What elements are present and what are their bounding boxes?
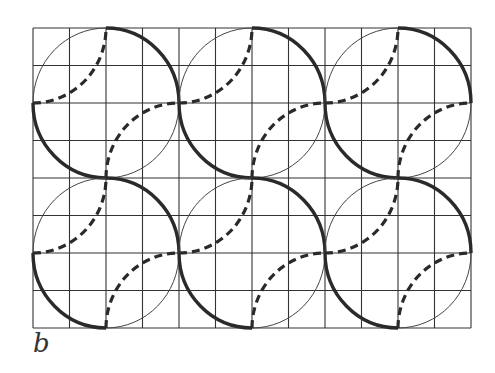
circle-grid-diagram <box>0 0 495 373</box>
figure-label: b <box>33 328 50 358</box>
